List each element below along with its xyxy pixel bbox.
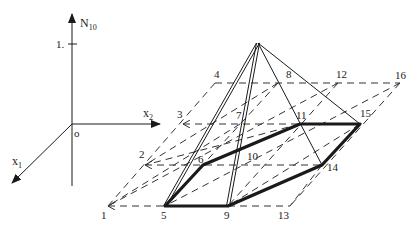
grid-point-label-3: 3 bbox=[177, 108, 183, 120]
pyramid-edge-5 bbox=[164, 43, 257, 206]
triangular-membership-pyramid-diagram: N10 1. o x2 x1 12345678910111213141516 bbox=[0, 0, 413, 225]
grid-point-label-9: 9 bbox=[224, 209, 230, 221]
grid-col-line-4 bbox=[290, 83, 400, 206]
axes: N10 1. o x2 x1 bbox=[12, 14, 160, 186]
grid-point-label-14: 14 bbox=[327, 161, 339, 173]
grid-point-label-8: 8 bbox=[286, 68, 292, 80]
n10-axis-label: N10 bbox=[80, 16, 97, 32]
grid-point-label-15: 15 bbox=[360, 107, 372, 119]
grid-point-label-10: 10 bbox=[247, 150, 259, 162]
grid-point-label-11: 11 bbox=[296, 109, 307, 121]
grid-point-label-5: 5 bbox=[161, 209, 167, 221]
grid-point-label-6: 6 bbox=[198, 153, 204, 165]
grid-point-label-16: 16 bbox=[395, 69, 407, 81]
grid-diagonal-line bbox=[145, 124, 300, 165]
x1-axis bbox=[12, 124, 72, 183]
tick-label-1: 1. bbox=[56, 38, 65, 50]
grid-point-label-2: 2 bbox=[139, 148, 145, 160]
grid-point-label-13: 13 bbox=[278, 209, 290, 221]
pyramid-edge-14 bbox=[258, 43, 322, 165]
origin-label: o bbox=[74, 127, 80, 139]
pyramid-edge-15 bbox=[258, 43, 360, 124]
grid-point-label-4: 4 bbox=[214, 68, 220, 80]
grid-point-label-1: 1 bbox=[101, 209, 107, 221]
grid-diagonal-line bbox=[165, 83, 400, 206]
x2-axis-label: x2 bbox=[143, 106, 153, 122]
grid-point-label-7: 7 bbox=[236, 109, 242, 121]
x1-axis-label: x1 bbox=[12, 154, 22, 170]
grid-point-label-12: 12 bbox=[336, 68, 347, 80]
